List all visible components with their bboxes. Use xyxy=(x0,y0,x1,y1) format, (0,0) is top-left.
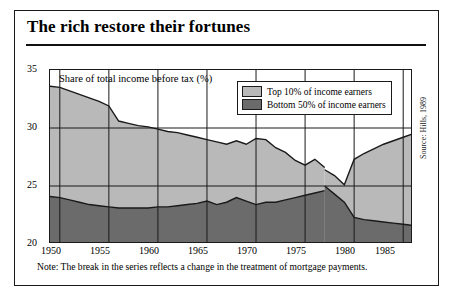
x-tick-label: 1970 xyxy=(227,246,267,256)
legend-item-bottom50: Bottom 50% of income earners xyxy=(242,98,386,111)
legend-label-top10: Top 10% of income earners xyxy=(267,87,372,97)
legend-swatch-bottom50 xyxy=(242,99,262,110)
legend-label-bottom50: Bottom 50% of income earners xyxy=(267,100,386,110)
x-tick-label: 1960 xyxy=(129,246,169,256)
legend-item-top10: Top 10% of income earners xyxy=(242,85,386,98)
x-tick-label: 1980 xyxy=(325,246,365,256)
y-tick-label: 30 xyxy=(15,122,37,132)
figure-container: The rich restore their fortunes 35 30 25… xyxy=(14,10,439,286)
title-divider xyxy=(26,44,426,46)
x-tick-label: 1975 xyxy=(276,246,316,256)
x-tick-label: 1950 xyxy=(31,246,71,256)
chart-note: Note: The break in the series reflects a… xyxy=(37,261,367,272)
y-tick-label: 35 xyxy=(15,64,37,74)
x-tick-label: 1965 xyxy=(178,246,218,256)
x-tick-label: 1955 xyxy=(80,246,120,256)
x-tick-label: 1985 xyxy=(365,246,405,256)
chart-source: Source: Hills, 1989 xyxy=(419,69,428,159)
legend-swatch-top10 xyxy=(242,86,262,97)
chart-legend: Top 10% of income earners Bottom 50% of … xyxy=(237,81,392,115)
axis-label: Share of total income before tax (%) xyxy=(59,73,212,84)
page-title: The rich restore their fortunes xyxy=(27,17,250,37)
y-tick-label: 25 xyxy=(15,180,37,190)
